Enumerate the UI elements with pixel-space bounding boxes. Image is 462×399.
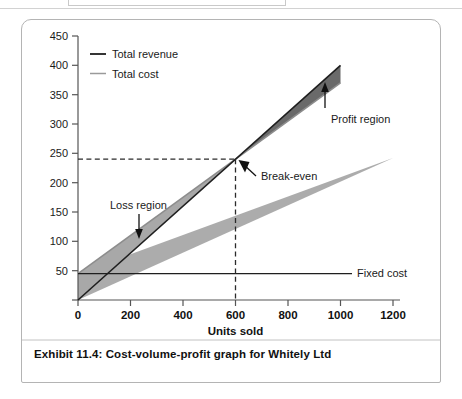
y-tick-450: 450 [50, 30, 68, 42]
chart-legend: Total revenue Total cost [90, 48, 178, 80]
legend-label-total-revenue: Total revenue [112, 48, 178, 60]
y-tick-300: 300 [50, 118, 68, 130]
legend-item-total-cost: Total cost [90, 68, 158, 80]
y-tick-400: 400 [50, 59, 68, 71]
legend-label-total-cost: Total cost [112, 68, 158, 80]
x-tick-1000: 1000 [328, 309, 354, 321]
y-tick-50: 50 [56, 265, 68, 277]
break-even-annotation: Break-even [239, 160, 318, 182]
x-axis-tick-labels: 0 200 400 600 800 1000 1200 [75, 309, 406, 321]
y-tick-100: 100 [50, 235, 68, 247]
y-axis-ticks [72, 36, 78, 300]
y-tick-350: 350 [50, 89, 68, 101]
fixed-cost-label: Fixed cost [357, 267, 407, 279]
legend-item-total-revenue: Total revenue [90, 48, 178, 60]
x-tick-400: 400 [173, 309, 192, 321]
x-tick-200: 200 [121, 309, 140, 321]
break-even-arrow-head [239, 160, 250, 173]
x-tick-1200: 1200 [380, 309, 406, 321]
break-even-label: Break-even [261, 170, 317, 182]
exhibit-caption: Exhibit 11.4: Cost-volume-profit graph f… [34, 348, 424, 360]
x-axis-ticks [78, 300, 393, 306]
total-revenue-line [78, 65, 341, 300]
y-tick-200: 200 [50, 177, 68, 189]
loss-region-label: Loss region [110, 199, 167, 211]
y-tick-150: 150 [50, 206, 68, 218]
profit-region-label: Profit region [331, 113, 390, 125]
cost-volume-profit-chart: 450 400 350 300 250 200 150 100 50 0 200… [0, 0, 462, 399]
x-tick-0: 0 [75, 309, 81, 321]
x-axis-title: Units sold [208, 325, 264, 337]
y-tick-250: 250 [50, 147, 68, 159]
x-tick-800: 800 [278, 309, 297, 321]
y-axis-tick-labels: 450 400 350 300 250 200 150 100 50 [50, 30, 68, 277]
x-tick-600: 600 [226, 309, 245, 321]
